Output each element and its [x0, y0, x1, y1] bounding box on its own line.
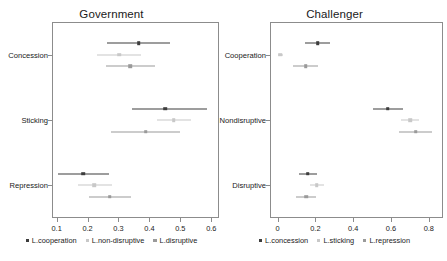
data-point [128, 64, 132, 68]
x-axis-tick [211, 218, 212, 222]
legend-item-label: L.sticking [323, 236, 354, 245]
data-point [144, 130, 148, 134]
x-axis-tick [149, 218, 150, 222]
y-axis-tick [266, 120, 270, 121]
legend-item: L.sticking [317, 236, 354, 245]
chart-panel-challenger: Challenger L.concessionL.stickingL.repre… [223, 0, 446, 261]
x-axis-tick [278, 218, 279, 222]
legend-item: L.concession [259, 236, 308, 245]
legend-item-label: L.disruptive [160, 236, 198, 245]
legend-item: L.disruptive [153, 236, 197, 245]
y-axis-label-sticking: Sticking [21, 116, 48, 125]
x-axis-tick-label: 0.2 [310, 224, 320, 233]
x-axis-tick-label: 0.2 [82, 224, 92, 233]
data-point [93, 184, 97, 188]
x-axis-tick-label: 0.1 [51, 224, 61, 233]
y-axis-tick [266, 185, 270, 186]
data-point [305, 195, 309, 199]
legend-item-label: L.cooperation [32, 236, 77, 245]
legend-swatch-icon [317, 239, 320, 242]
data-point [117, 53, 121, 57]
data-point [386, 107, 390, 111]
x-axis-tick-label: 0.6 [206, 224, 216, 233]
x-axis-tick [57, 218, 58, 222]
data-point [315, 184, 319, 188]
data-point [279, 53, 283, 57]
legend-item: L.repression [363, 236, 410, 245]
x-axis-tick-label: 0.8 [424, 224, 434, 233]
legend-swatch-icon [86, 239, 89, 242]
x-axis-tick [391, 218, 392, 222]
panel-title-government: Government [0, 8, 223, 20]
data-point [137, 41, 141, 45]
x-axis-tick [88, 218, 89, 222]
legend-swatch-icon [363, 239, 366, 242]
x-axis-tick-label: 0.6 [386, 224, 396, 233]
x-axis-tick [353, 218, 354, 222]
legend-item-label: L.repression [369, 236, 410, 245]
legend-swatch-icon [153, 239, 156, 242]
figure-panel-group: Government L.cooperationL.non-disruptive… [0, 0, 447, 261]
y-axis-label-disruptive: Disruptive [232, 181, 266, 190]
data-point [81, 172, 85, 176]
data-point [414, 130, 418, 134]
error-bar [132, 108, 206, 109]
data-point [172, 118, 176, 122]
y-axis-label-repression: Repression [10, 181, 48, 190]
legend-swatch-icon [259, 239, 262, 242]
legend-government: L.cooperationL.non-disruptiveL.disruptiv… [0, 236, 223, 245]
plot-area-government [52, 22, 219, 218]
panel-title-challenger: Challenger [223, 8, 446, 20]
y-axis-tick [48, 55, 52, 56]
legend-item-label: L.concession [265, 236, 308, 245]
x-axis-tick-label: 0.4 [348, 224, 358, 233]
legend-item: L.cooperation [26, 236, 77, 245]
legend-swatch-icon [26, 239, 29, 242]
x-axis-tick [315, 218, 316, 222]
y-axis-label-cooperation: Cooperation [225, 50, 266, 59]
y-axis-label-nondisruptive: Nondisruptive [220, 116, 266, 125]
y-axis-tick [266, 55, 270, 56]
data-point [306, 172, 310, 176]
data-point [108, 195, 112, 199]
legend-challenger: L.concessionL.stickingL.repression [223, 236, 446, 245]
data-point [408, 118, 412, 122]
x-axis-tick-label: 0.3 [113, 224, 123, 233]
y-axis-tick [48, 185, 52, 186]
legend-item: L.non-disruptive [86, 236, 145, 245]
data-point [316, 41, 320, 45]
x-axis-tick [118, 218, 119, 222]
data-point [304, 64, 308, 68]
chart-panel-government: Government L.cooperationL.non-disruptive… [0, 0, 223, 261]
x-axis-tick-label: 0 [276, 224, 280, 233]
y-axis-tick [48, 120, 52, 121]
legend-item-label: L.non-disruptive [92, 236, 145, 245]
x-axis-tick-label: 0.4 [144, 224, 154, 233]
x-axis-tick-label: 0.5 [175, 224, 185, 233]
data-point [164, 107, 168, 111]
x-axis-tick [180, 218, 181, 222]
x-axis-tick [429, 218, 430, 222]
y-axis-label-concession: Concession [8, 50, 48, 59]
